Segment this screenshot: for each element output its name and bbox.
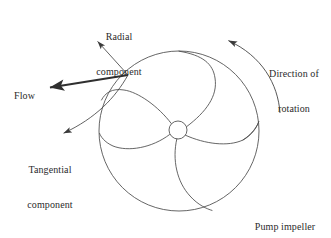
label-tangential-component: Tangential component <box>14 141 86 233</box>
label-direction-of-rotation: Direction of rotation <box>260 45 328 137</box>
impeller-hub-circle <box>169 121 187 139</box>
label-tangential-line1: Tangential <box>14 164 86 176</box>
label-tangential-line2: component <box>14 199 86 211</box>
impeller-vane-1 <box>179 51 215 126</box>
label-pump-impeller: Pump impeller (or “wheel”) <box>239 198 331 238</box>
impeller-vane-2b <box>243 122 259 141</box>
label-radial-line1: Radial <box>84 31 154 43</box>
label-rotation-line1: Direction of <box>260 68 328 80</box>
label-impeller-line1: Pump impeller <box>239 221 331 233</box>
label-radial-line2: component <box>84 66 154 78</box>
label-rotation-line2: rotation <box>260 103 328 115</box>
impeller-vane-3 <box>175 139 212 210</box>
label-flow: Flow <box>14 67 48 125</box>
label-radial-component: Radial component <box>84 8 154 100</box>
label-flow-line1: Flow <box>14 90 48 102</box>
pump-impeller-diagram: Radial component Flow Tangential compone… <box>0 0 331 238</box>
impeller-vane-2 <box>186 122 259 144</box>
impeller-vane-4 <box>100 134 170 149</box>
